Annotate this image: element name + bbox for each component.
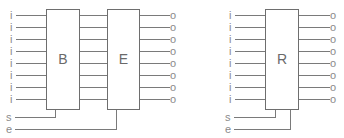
- output-label-o: o: [330, 21, 336, 33]
- control-label-s: s: [225, 111, 231, 123]
- e-control-wire: [15, 110, 117, 130]
- input-label-i: i: [229, 33, 231, 45]
- input-label-i: i: [229, 9, 231, 21]
- input-label-i: i: [10, 21, 12, 33]
- input-label-i: i: [10, 69, 12, 81]
- output-label-o: o: [330, 93, 336, 105]
- input-label-i: i: [10, 81, 12, 93]
- output-label-o: o: [170, 21, 176, 33]
- output-label-o: o: [170, 45, 176, 57]
- output-label-o: o: [330, 81, 336, 93]
- input-label-i: i: [229, 45, 231, 57]
- output-label-o: o: [170, 69, 176, 81]
- input-label-i: i: [229, 81, 231, 93]
- input-label-i: i: [10, 9, 12, 21]
- control-label-s: s: [6, 111, 12, 123]
- output-label-o: o: [170, 93, 176, 105]
- block-r-label: R: [277, 51, 287, 67]
- left-circuit-group: ioioioioioioioioBEse: [6, 9, 176, 135]
- output-label-o: o: [170, 57, 176, 69]
- input-label-i: i: [229, 93, 231, 105]
- control-label-e: e: [6, 123, 12, 135]
- output-label-o: o: [170, 9, 176, 21]
- right-circuit-group: ioioioioioioioioRse: [225, 9, 336, 135]
- input-label-i: i: [10, 45, 12, 57]
- block-b-label: B: [58, 51, 67, 67]
- control-label-e: e: [225, 123, 231, 135]
- input-label-i: i: [10, 33, 12, 45]
- block-e-label: E: [119, 51, 128, 67]
- input-label-i: i: [229, 21, 231, 33]
- s-control-wire: [15, 110, 56, 118]
- input-label-i: i: [10, 57, 12, 69]
- s-control-wire: [234, 110, 276, 118]
- output-label-o: o: [170, 33, 176, 45]
- diagram-canvas: ioioioioioioioioBEse ioioioioioioioioRse: [0, 0, 344, 138]
- input-label-i: i: [229, 57, 231, 69]
- input-label-i: i: [10, 93, 12, 105]
- output-label-o: o: [330, 9, 336, 21]
- output-label-o: o: [330, 33, 336, 45]
- output-label-o: o: [330, 57, 336, 69]
- output-label-o: o: [170, 81, 176, 93]
- output-label-o: o: [330, 45, 336, 57]
- input-label-i: i: [229, 69, 231, 81]
- output-label-o: o: [330, 69, 336, 81]
- e-control-wire: [234, 110, 291, 130]
